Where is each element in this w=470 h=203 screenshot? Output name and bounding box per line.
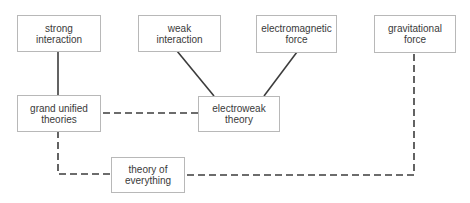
- unification-diagram: strong interaction weak interaction elec…: [0, 0, 470, 203]
- edge-gut-toe: [58, 131, 111, 174]
- node-label: grand unified theories: [30, 103, 88, 125]
- node-label: gravitational force: [388, 23, 442, 45]
- edge-em-ew: [264, 52, 297, 96]
- node-gravitational-force: gravitational force: [374, 15, 456, 53]
- node-grand-unified-theories: grand unified theories: [17, 95, 101, 132]
- node-electroweak-theory: electroweak theory: [198, 96, 280, 132]
- node-label: electroweak theory: [212, 103, 265, 125]
- edge-weak-ew: [177, 51, 214, 96]
- node-weak-interaction: weak interaction: [138, 15, 221, 52]
- node-strong-interaction: strong interaction: [17, 15, 101, 52]
- node-electromagnetic-force: electromagnetic force: [256, 15, 337, 53]
- node-label: theory of everything: [125, 164, 171, 186]
- node-label: electromagnetic force: [261, 23, 332, 45]
- node-label: weak interaction: [156, 23, 202, 45]
- node-label: strong interaction: [36, 23, 82, 45]
- node-theory-of-everything: theory of everything: [111, 157, 185, 193]
